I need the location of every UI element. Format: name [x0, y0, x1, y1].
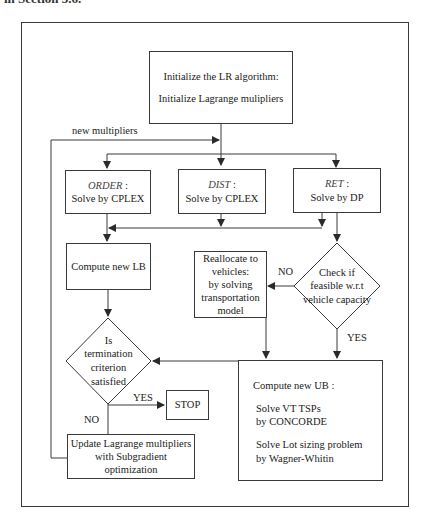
check-line: Check if: [319, 266, 355, 280]
ub-step2-line1: Solve Lot sizing problem: [253, 438, 362, 451]
reallocate-box: Reallocate to vehicles: by solving trans…: [194, 251, 267, 318]
check-yes-label: YES: [347, 332, 367, 343]
ub-step1-line1: Solve VT TSPs: [253, 402, 321, 415]
check-line: feasible w.r.t: [310, 279, 363, 293]
order-colon: :: [122, 180, 128, 191]
order-name: ORDER: [88, 180, 122, 191]
compute-lb-label: Compute new LB: [71, 260, 146, 273]
ub-step1-line2: by CONCORDE: [253, 415, 327, 428]
reallocate-line: Reallocate to: [203, 252, 258, 265]
reallocate-line: by solving: [208, 278, 252, 291]
compute-ub-box: Compute new UB : Solve VT TSPs by CONCOR…: [238, 360, 383, 481]
init-line-1: Initialize the LR algorithm:: [163, 70, 278, 83]
stop-label: STOP: [175, 398, 201, 411]
check-line: vehicle capacity: [303, 293, 371, 307]
order-box: ORDER : Solve by CPLEX: [65, 170, 151, 214]
compute-lb-box: Compute new LB: [66, 243, 151, 290]
check-no-label: NO: [278, 266, 293, 277]
termination-line: termination: [84, 347, 132, 361]
term-yes-label: YES: [133, 392, 153, 403]
dist-name: DIST: [208, 179, 230, 190]
termination-line: satisfied: [91, 375, 126, 389]
order-action: Solve by CPLEX: [72, 192, 145, 205]
reallocate-line: vehicles:: [212, 265, 249, 278]
update-box: Update Lagrange multipliers with Subgrad…: [67, 434, 195, 479]
term-no-label: NO: [84, 414, 99, 425]
termination-line: criterion: [91, 361, 127, 375]
reallocate-line: model: [217, 304, 243, 317]
dist-colon: :: [230, 179, 236, 190]
dist-action: Solve by CPLEX: [186, 192, 259, 205]
ret-box: RET : Solve by DP: [293, 168, 381, 213]
ub-title: Compute new UB :: [253, 379, 334, 392]
init-box: Initialize the LR algorithm: Initialize …: [149, 51, 293, 124]
reallocate-line: transportation: [201, 291, 259, 304]
init-line-2: Initialize Lagrange mulipliers: [159, 92, 284, 105]
ret-colon: :: [344, 178, 350, 189]
ub-step2-line2: by Wagner-Whitin: [253, 452, 334, 465]
dist-box: DIST : Solve by CPLEX: [178, 169, 266, 214]
update-line-2: with Subgradient optimization: [68, 450, 194, 476]
update-line-1: Update Lagrange multipliers: [71, 437, 192, 450]
ret-name: RET: [325, 178, 344, 189]
stop-box: STOP: [166, 390, 209, 420]
new-multipliers-label: new multipliers: [72, 125, 138, 136]
ret-action: Solve by DP: [310, 191, 363, 204]
termination-line: Is: [105, 334, 113, 348]
termination-text: Is termination criterion satisfied: [66, 332, 151, 390]
check-feasible-text: Check if feasible w.r.t vehicle capacity: [294, 260, 380, 312]
